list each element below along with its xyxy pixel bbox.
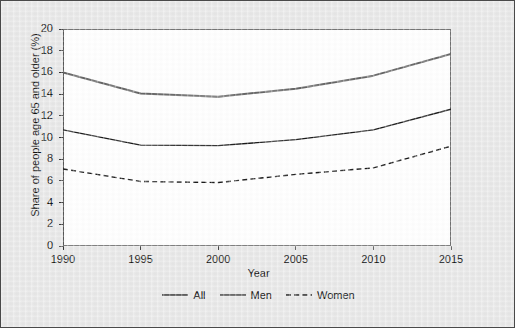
x-axis-title: Year [1,267,515,279]
legend-swatch-men-icon [220,290,246,300]
chart-figure: 02468101214161820 1990199520002005201020… [0,0,515,328]
legend-entry-women: Women [286,289,355,301]
x-tick-label: 2000 [198,253,238,265]
legend-label: Men [251,289,272,301]
chart-legend: AllMenWomen [1,289,515,301]
legend-swatch-women-icon [286,290,312,300]
legend-label: Women [317,289,355,301]
x-tick-label: 2010 [353,253,393,265]
y-tick-label: 0 [27,239,53,251]
legend-label: All [193,289,205,301]
y-axis-title: Share of people age 65 and older (%) [29,15,41,235]
legend-swatch-all-icon [162,290,188,300]
x-tick-label: 2015 [431,253,471,265]
legend-entry-all: All [162,289,205,301]
x-tick-label: 1995 [121,253,161,265]
legend-entry-men: Men [220,289,272,301]
x-tick-label: 2005 [276,253,316,265]
x-tick-label: 1990 [43,253,83,265]
